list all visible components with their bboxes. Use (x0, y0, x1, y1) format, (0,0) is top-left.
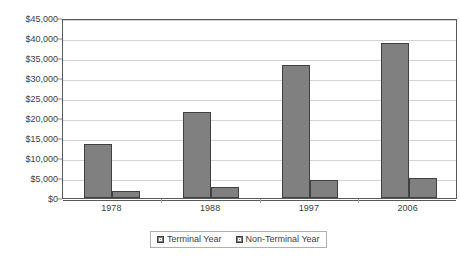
y-tick-label: $25,000 (0, 95, 58, 104)
bar (183, 112, 211, 198)
x-tick-label: 2006 (398, 203, 418, 214)
bar (409, 178, 437, 198)
y-tick-label: $0 (0, 195, 58, 204)
legend-swatch-icon (236, 236, 243, 243)
y-tick-label: $45,000 (0, 15, 58, 24)
legend-item[interactable]: Non-Terminal Year (236, 234, 320, 245)
x-tick-label: 1988 (200, 203, 220, 214)
y-tick-label: $15,000 (0, 135, 58, 144)
x-axis: 1978198819972006 (62, 203, 457, 219)
bar (310, 180, 338, 198)
y-tick-label: $5,000 (0, 175, 58, 184)
bar (381, 43, 409, 198)
x-tick-mark (260, 199, 261, 203)
bar (211, 187, 239, 198)
legend-swatch-icon (157, 236, 164, 243)
y-tick-label: $20,000 (0, 115, 58, 124)
x-tick-label: 1978 (101, 203, 121, 214)
legend-item-label: Terminal Year (167, 234, 222, 245)
bar (84, 144, 112, 198)
y-tick-label: $35,000 (0, 55, 58, 64)
y-tick-label: $40,000 (0, 35, 58, 44)
legend-item[interactable]: Terminal Year (157, 234, 222, 245)
y-tick-label: $30,000 (0, 75, 58, 84)
x-tick-mark (161, 199, 162, 203)
bar-chart: $0$5,000$10,000$15,000$20,000$25,000$30,… (0, 0, 460, 262)
y-tick-label: $10,000 (0, 155, 58, 164)
x-tick-mark (358, 199, 359, 203)
y-axis: $0$5,000$10,000$15,000$20,000$25,000$30,… (0, 19, 58, 199)
chart-legend: Terminal YearNon-Terminal Year (150, 231, 327, 248)
bar (282, 65, 310, 198)
bars-layer (63, 20, 456, 198)
plot-area (62, 19, 457, 199)
bar (112, 191, 140, 198)
x-tick-label: 1997 (299, 203, 319, 214)
legend-item-label: Non-Terminal Year (246, 234, 320, 245)
